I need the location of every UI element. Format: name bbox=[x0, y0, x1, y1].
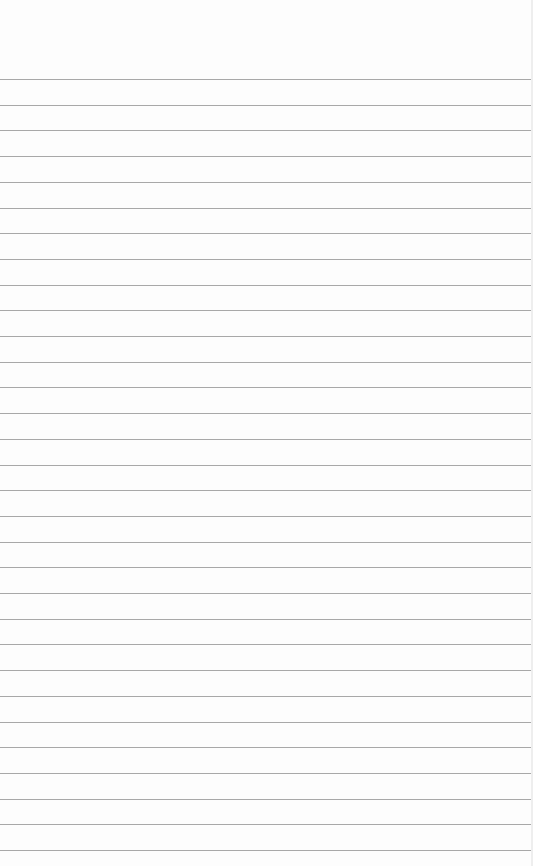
ruled-line bbox=[0, 285, 533, 286]
ruled-line bbox=[0, 670, 533, 671]
ruled-line bbox=[0, 567, 533, 568]
ruled-line bbox=[0, 516, 533, 517]
ruled-line bbox=[0, 182, 533, 183]
ruled-line bbox=[0, 362, 533, 363]
ruled-line bbox=[0, 747, 533, 748]
ruled-line bbox=[0, 259, 533, 260]
ruled-line bbox=[0, 593, 533, 594]
ruled-line bbox=[0, 439, 533, 440]
ruled-line bbox=[0, 696, 533, 697]
ruled-line bbox=[0, 644, 533, 645]
ruled-line bbox=[0, 79, 533, 80]
ruled-line bbox=[0, 105, 533, 106]
ruled-line bbox=[0, 310, 533, 311]
ruled-line bbox=[0, 799, 533, 800]
ruled-line bbox=[0, 542, 533, 543]
ruled-line bbox=[0, 413, 533, 414]
ruled-line bbox=[0, 387, 533, 388]
ruled-line bbox=[0, 233, 533, 234]
ruled-line bbox=[0, 336, 533, 337]
ruled-line bbox=[0, 773, 533, 774]
ruled-line bbox=[0, 850, 533, 851]
ruled-line bbox=[0, 465, 533, 466]
ruled-line bbox=[0, 156, 533, 157]
ruled-line bbox=[0, 208, 533, 209]
ruled-line bbox=[0, 824, 533, 825]
ruled-line bbox=[0, 130, 533, 131]
ruled-line bbox=[0, 619, 533, 620]
ruled-line bbox=[0, 722, 533, 723]
ruled-line bbox=[0, 490, 533, 491]
